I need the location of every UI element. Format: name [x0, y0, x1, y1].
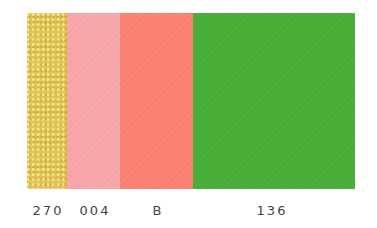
swatch-b [120, 13, 193, 189]
swatch-004 [67, 13, 120, 189]
swatch-label-004: 004 [80, 203, 111, 218]
swatch-270 [27, 13, 67, 189]
swatch-label-270: 270 [33, 203, 64, 218]
swatch-label-136: 136 [257, 203, 288, 218]
swatch-label-b: B [153, 203, 164, 218]
swatch-136 [193, 13, 355, 189]
swatch-labels: 270 004 B 136 [0, 203, 377, 223]
color-swatch-row [27, 13, 355, 189]
